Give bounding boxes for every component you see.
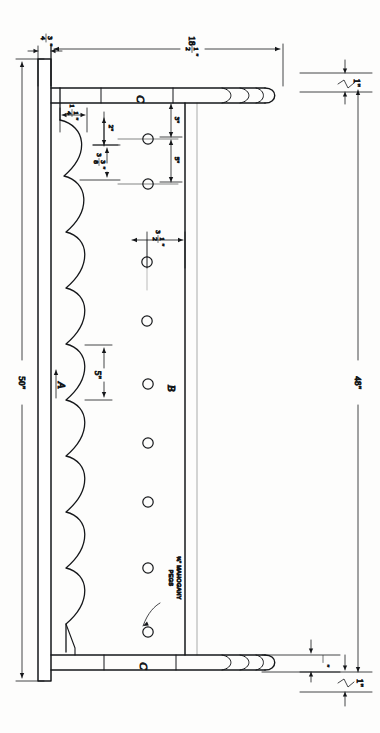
svg-text:″: ″ — [158, 244, 166, 247]
dim-label-peg-edge-offset: 3" — [173, 117, 181, 124]
part-label-b: B — [166, 385, 178, 392]
svg-text:5": 5" — [173, 157, 181, 164]
svg-text:1": 1" — [355, 679, 365, 688]
svg-text:PEGS: PEGS — [168, 570, 174, 587]
svg-text:″: ″ — [72, 118, 80, 121]
svg-text:″: ″ — [323, 665, 331, 668]
svg-text:3: 3 — [95, 153, 103, 157]
part-label-c-bottom: C — [138, 662, 150, 670]
drawing-sheet: C C — [0, 0, 380, 733]
dim-label-peg-spacing: 5" — [173, 157, 181, 164]
svg-text:1: 1 — [192, 47, 200, 51]
part-label-a: A — [56, 381, 68, 389]
svg-text:18: 18 — [187, 36, 197, 46]
dim-label-rail-thickness-bottom: 1" — [355, 679, 365, 688]
part-label-c-top: C — [135, 95, 147, 103]
dim-label-overall-height-inner: 48" — [353, 376, 363, 389]
svg-text:3: 3 — [154, 230, 162, 234]
part-a-stile — [38, 59, 51, 681]
svg-text:48": 48" — [353, 376, 363, 389]
svg-text:1: 1 — [68, 104, 76, 108]
dim-label-scallop-pitch: 5" — [93, 371, 103, 380]
svg-text:5": 5" — [93, 371, 103, 380]
svg-text:2: 2 — [184, 47, 192, 51]
svg-text:″: ″ — [46, 44, 54, 47]
svg-text:3": 3" — [173, 117, 181, 124]
svg-text:″: ″ — [99, 167, 107, 170]
svg-text:1": 1" — [352, 79, 362, 88]
svg-text:2": 2" — [107, 125, 115, 132]
svg-text:50": 50" — [17, 376, 27, 389]
dim-label-rail-thickness-top: 1" — [352, 79, 362, 88]
svg-text:B: B — [166, 385, 178, 392]
svg-text:A: A — [56, 381, 68, 389]
dim-label-overall-height-outer: 50" — [17, 376, 27, 389]
paper-background — [0, 0, 380, 733]
svg-text:″: ″ — [192, 54, 200, 57]
svg-text:¾" MAHOGANY: ¾" MAHOGANY — [176, 556, 182, 600]
technical-drawing-canvas: C C — [0, 0, 380, 733]
dim-label-scallop-offset-2: 2" — [107, 125, 115, 132]
